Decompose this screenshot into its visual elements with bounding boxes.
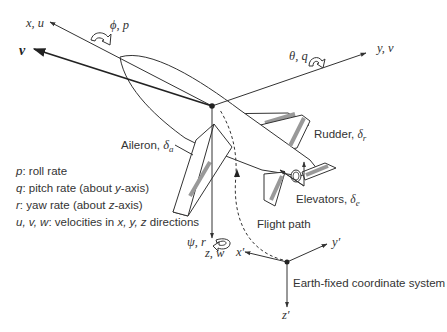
earth-origin bbox=[285, 260, 290, 265]
aileron-label: Aileron, bbox=[121, 139, 163, 151]
rudder-label: Rudder, bbox=[314, 128, 357, 140]
aircraft-axes-diagram: x, u ϕ, p v y, v θ, q z, w ψ, r Aileron,… bbox=[0, 0, 447, 332]
earth-x-label: x′ bbox=[235, 245, 245, 259]
elevators-label: Elevators, bbox=[296, 193, 350, 205]
earth-axes-title: Earth-fixed coordinate system bbox=[293, 277, 445, 289]
legend: p: roll rate q: pitch rate (about y-axis… bbox=[15, 165, 199, 228]
roll-label: ϕ, p bbox=[110, 18, 129, 32]
pitch-label: θ, q bbox=[289, 49, 308, 63]
rudder-callout: Rudder, δr bbox=[314, 128, 367, 143]
y-axis-label: y, v bbox=[375, 41, 394, 55]
roll-rotation-icon bbox=[91, 33, 111, 45]
svg-text:Aileron, δa: Aileron, δa bbox=[121, 138, 174, 154]
earth-z-label: z′ bbox=[281, 308, 290, 322]
x-axis-label: x, u bbox=[25, 16, 44, 30]
flight-path-label: Flight path bbox=[257, 218, 311, 230]
svg-text:Rudder, δr: Rudder, δr bbox=[314, 128, 367, 143]
aileron-callout: Aileron, δa bbox=[121, 138, 193, 155]
velocity-label: v bbox=[19, 43, 26, 58]
flight-path-arrow-icon bbox=[234, 169, 240, 177]
earth-y-label: y′ bbox=[330, 235, 341, 249]
airplane bbox=[120, 55, 336, 216]
legend-item-roll: p: roll rate bbox=[15, 165, 67, 177]
legend-item-velocities: u, v, w: velocities in x, y, z direction… bbox=[16, 216, 199, 228]
earth-y-axis bbox=[287, 244, 327, 262]
pitch-rotation-icon bbox=[309, 58, 325, 68]
earth-axes bbox=[245, 244, 327, 307]
x-axis bbox=[50, 22, 212, 106]
z-axis-label: z, w bbox=[204, 246, 225, 260]
body-origin bbox=[209, 103, 215, 109]
legend-item-pitch: q: pitch rate (about y-axis) bbox=[16, 182, 149, 194]
yaw-label: ψ, r bbox=[187, 235, 206, 249]
legend-item-yaw: r: yaw rate (about z-axis) bbox=[16, 199, 143, 211]
svg-text:Elevators, δe: Elevators, δe bbox=[296, 193, 360, 208]
